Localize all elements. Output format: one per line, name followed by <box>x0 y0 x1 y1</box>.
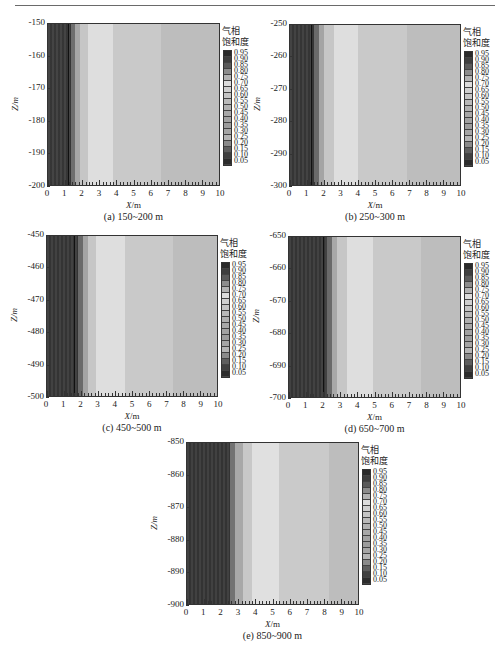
x-tick-mark <box>221 599 222 604</box>
x-tick-mark <box>341 599 342 604</box>
x-tick-label: 8 <box>419 401 433 410</box>
x-tick-mark <box>152 393 153 396</box>
saturation-band <box>88 24 113 185</box>
x-tick-mark <box>364 394 365 397</box>
x-tick-mark <box>358 180 359 185</box>
x-tick-mark <box>144 182 145 185</box>
x-tick-mark <box>324 599 325 604</box>
colorbar <box>464 51 473 167</box>
dark-zone-texture <box>187 443 230 604</box>
y-tick-mark <box>46 365 49 366</box>
x-tick-mark <box>375 392 376 397</box>
x-tick-label: 10 <box>211 400 225 409</box>
x-tick-mark <box>168 180 169 185</box>
x-tick-mark <box>429 394 430 397</box>
x-tick-mark <box>344 394 345 397</box>
x-tick-mark <box>381 394 382 397</box>
x-tick-mark <box>385 394 386 397</box>
x-tick-mark <box>378 182 379 185</box>
colorbar <box>221 262 230 378</box>
x-tick-mark <box>151 180 152 185</box>
x-tick-mark <box>173 393 174 396</box>
x-tick-mark <box>171 182 172 185</box>
x-axis-unit: /m <box>270 619 280 629</box>
colorbar-title-line2: 饱和度 <box>463 38 493 49</box>
heatmap-plot-area <box>289 24 461 186</box>
x-tick-mark <box>389 182 390 185</box>
panel-caption: (b) 250~300 m <box>295 211 455 222</box>
heatmap-plot-area <box>186 442 359 605</box>
x-tick-mark <box>351 394 352 397</box>
x-tick-label: 9 <box>437 189 451 198</box>
x-tick-mark <box>192 182 193 185</box>
colorbar-title-line1: 气相 <box>463 239 493 250</box>
x-tick-mark <box>139 393 140 396</box>
x-tick-label: 10 <box>352 608 366 617</box>
x-tick-mark <box>259 601 260 604</box>
y-tick-mark <box>186 572 189 573</box>
x-tick-label: 7 <box>159 400 173 409</box>
y-tick-mark <box>186 475 189 476</box>
x-tick-mark <box>422 394 423 397</box>
x-tick-mark <box>175 182 176 185</box>
x-tick-mark <box>378 394 379 397</box>
contour-line <box>68 24 69 185</box>
x-tick-label: 9 <box>437 401 451 410</box>
y-tick-mark <box>46 300 49 301</box>
x-tick-mark <box>203 393 204 396</box>
heatmap-plot-area <box>47 23 220 186</box>
colorbar-swatch <box>222 371 229 377</box>
x-tick-label: 1 <box>298 401 312 410</box>
colorbar-title: 气相饱和度 <box>463 239 493 261</box>
colorbar-title: 气相饱和度 <box>361 445 391 467</box>
x-tick-mark <box>137 182 138 185</box>
x-tick-mark <box>211 601 212 604</box>
contour-line <box>311 25 312 185</box>
colorbar-labels: 0.950.900.850.800.750.700.650.600.550.50… <box>373 469 387 583</box>
x-tick-mark <box>197 601 198 604</box>
x-tick-label: 2 <box>75 189 89 198</box>
x-tick-mark <box>210 393 211 396</box>
x-tick-mark <box>96 182 97 185</box>
x-tick-mark <box>108 393 109 396</box>
x-tick-mark <box>200 391 201 396</box>
x-tick-mark <box>412 182 413 185</box>
x-tick-mark <box>372 182 373 185</box>
x-tick-label: 1 <box>56 400 70 409</box>
x-tick-mark <box>208 601 209 604</box>
x-tick-label: 1 <box>57 189 71 198</box>
x-tick-mark <box>358 599 359 604</box>
x-tick-mark <box>320 394 321 397</box>
colorbar-title-line2: 饱和度 <box>220 249 250 260</box>
x-tick-mark <box>273 599 274 604</box>
x-axis-label: X/m <box>112 411 152 421</box>
x-tick-mark <box>412 394 413 397</box>
colorbar-title-line1: 气相 <box>361 445 391 456</box>
x-tick-mark <box>214 393 215 396</box>
x-tick-label: 5 <box>125 400 139 409</box>
x-tick-mark <box>129 393 130 396</box>
y-tick-mark <box>289 186 292 187</box>
x-tick-mark <box>72 182 73 185</box>
x-tick-mark <box>446 182 447 185</box>
colorbar-swatch <box>224 159 231 165</box>
x-tick-label: 5 <box>368 189 382 198</box>
x-tick-mark <box>115 391 116 396</box>
x-tick-mark <box>310 601 311 604</box>
x-tick-mark <box>314 182 315 185</box>
saturation-band <box>279 443 329 604</box>
colorbar-title-line1: 气相 <box>220 238 250 249</box>
colorbar-level-label: 0.05 <box>373 577 387 583</box>
x-tick-mark <box>299 394 300 397</box>
x-tick-mark <box>300 601 301 604</box>
x-tick-label: 1 <box>299 189 313 198</box>
x-tick-mark <box>443 180 444 185</box>
y-tick-label: -690 <box>260 361 286 370</box>
panel-caption: (a) 150~200 m <box>54 211 214 222</box>
x-tick-mark <box>82 180 83 185</box>
x-tick-label: 7 <box>161 189 175 198</box>
x-tick-mark <box>324 180 325 185</box>
y-tick-mark <box>46 267 49 268</box>
y-tick-mark <box>186 540 189 541</box>
x-tick-mark <box>95 393 96 396</box>
